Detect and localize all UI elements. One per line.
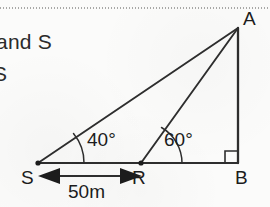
vertex-label-S: S	[21, 168, 34, 187]
right-angle-marker-at-B	[225, 151, 237, 163]
vertex-dot-R	[138, 160, 143, 165]
angle-label-at-R: 60°	[164, 130, 193, 149]
angle-label-at-S: 40°	[87, 130, 116, 149]
dimension-label-SR: 50m	[68, 182, 105, 201]
segment-hypotenuse-SA	[38, 28, 238, 163]
dimension-arrowhead-left	[38, 168, 60, 184]
vertex-label-B: B	[235, 168, 248, 187]
vertex-label-R: R	[132, 168, 146, 187]
vertex-label-A: A	[243, 9, 256, 28]
vertex-dot-S	[35, 160, 40, 165]
diagram-page: and S S A B S R 4	[0, 0, 270, 207]
